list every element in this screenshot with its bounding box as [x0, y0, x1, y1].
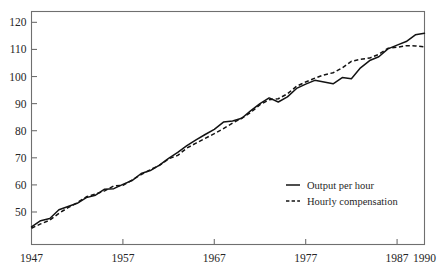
- x-tick-label-1967: 1967: [203, 252, 226, 264]
- x-tick-label-1957: 1957: [111, 252, 134, 264]
- x-tick-label-1990: 1990: [413, 252, 436, 264]
- y-tick-label-90: 90: [15, 98, 27, 110]
- y-tick-label-110: 110: [10, 43, 27, 55]
- y-tick-label-120: 120: [9, 16, 27, 28]
- line-chart: 5060708090100110120 19471957196719771987…: [0, 0, 441, 277]
- legend-label-output-per-hour: Output per hour: [307, 180, 375, 191]
- y-tick-label-60: 60: [15, 179, 27, 191]
- y-tick-label-50: 50: [15, 206, 27, 218]
- chart-background: [0, 0, 441, 277]
- x-tick-label-1987: 1987: [386, 252, 409, 264]
- y-tick-label-100: 100: [9, 71, 27, 83]
- y-tick-label-80: 80: [15, 125, 27, 137]
- chart-figure: 5060708090100110120 19471957196719771987…: [0, 0, 441, 277]
- legend-label-hourly-compensation: Hourly compensation: [307, 196, 398, 207]
- x-tick-label-1947: 1947: [20, 252, 43, 264]
- y-tick-label-70: 70: [15, 152, 27, 164]
- x-tick-label-1977: 1977: [294, 252, 317, 264]
